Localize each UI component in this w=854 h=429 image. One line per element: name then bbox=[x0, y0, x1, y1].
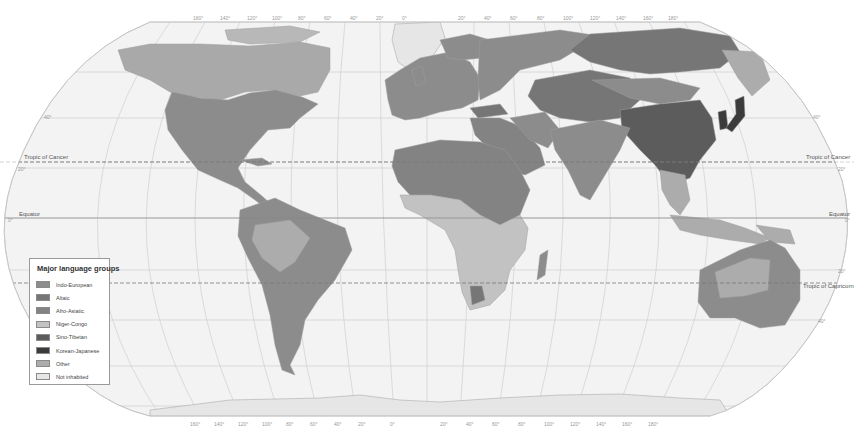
svg-text:140°: 140° bbox=[214, 421, 224, 427]
legend-label: Not inhabited bbox=[56, 374, 88, 380]
svg-text:60°: 60° bbox=[310, 421, 318, 427]
svg-text:180°: 180° bbox=[648, 421, 658, 427]
svg-text:40°: 40° bbox=[350, 15, 358, 21]
svg-text:160°: 160° bbox=[622, 421, 632, 427]
legend: Major language groups Indo-European Alta… bbox=[29, 258, 110, 385]
lat-tick-0-right: 0° bbox=[845, 217, 850, 223]
svg-text:140°: 140° bbox=[220, 15, 230, 21]
legend-label: Afro-Asiatic bbox=[56, 308, 84, 314]
longitude-ticks-top: 160° 140° 120° 100° 80° 60° 40° 20° 0° 2… bbox=[193, 15, 678, 21]
svg-text:20°: 20° bbox=[376, 15, 384, 21]
svg-text:160°: 160° bbox=[193, 15, 203, 21]
svg-text:120°: 120° bbox=[247, 15, 257, 21]
legend-swatch bbox=[36, 334, 50, 341]
svg-text:80°: 80° bbox=[286, 421, 294, 427]
legend-swatch bbox=[36, 307, 50, 314]
svg-text:60°: 60° bbox=[324, 15, 332, 21]
legend-label: Sino-Tibetan bbox=[56, 334, 87, 340]
legend-swatch bbox=[36, 347, 50, 354]
svg-text:20°: 20° bbox=[440, 421, 448, 427]
legend-label: Altaic bbox=[56, 295, 69, 301]
svg-text:80°: 80° bbox=[518, 421, 526, 427]
legend-item-sino-tibetan: Sino-Tibetan bbox=[36, 331, 103, 344]
svg-text:140°: 140° bbox=[596, 421, 606, 427]
legend-item-korean-japanese: Korean-Japanese bbox=[36, 344, 103, 357]
lat-tick-s40-right: 40° bbox=[818, 318, 826, 324]
svg-text:100°: 100° bbox=[563, 15, 573, 21]
legend-swatch bbox=[36, 294, 50, 301]
svg-text:180°: 180° bbox=[668, 15, 678, 21]
longitude-ticks-bottom: 160° 140° 120° 100° 80° 60° 40° 20° 0° 2… bbox=[190, 421, 658, 427]
legend-label: Indo-European bbox=[56, 282, 92, 288]
legend-swatch bbox=[36, 360, 50, 367]
legend-swatch bbox=[36, 281, 50, 288]
svg-text:120°: 120° bbox=[238, 421, 248, 427]
label-tropic-of-capricorn-right: Tropic of Capricorn bbox=[803, 283, 854, 289]
svg-text:60°: 60° bbox=[492, 421, 500, 427]
legend-label: Korean-Japanese bbox=[56, 348, 99, 354]
svg-text:140°: 140° bbox=[616, 15, 626, 21]
svg-text:60°: 60° bbox=[510, 15, 518, 21]
svg-text:0°: 0° bbox=[390, 421, 395, 427]
legend-item-other: Other bbox=[36, 357, 103, 370]
lat-tick-n20-right: 20° bbox=[838, 166, 846, 172]
svg-text:120°: 120° bbox=[570, 421, 580, 427]
lat-tick-n40-right: 40° bbox=[813, 114, 821, 120]
svg-text:40°: 40° bbox=[334, 421, 342, 427]
svg-text:80°: 80° bbox=[298, 15, 306, 21]
legend-label: Other bbox=[56, 361, 70, 367]
svg-text:100°: 100° bbox=[262, 421, 272, 427]
svg-text:100°: 100° bbox=[544, 421, 554, 427]
legend-item-indo-european: Indo-European bbox=[36, 278, 103, 291]
legend-item-afro-asiatic: Afro-Asiatic bbox=[36, 304, 103, 317]
svg-text:100°: 100° bbox=[272, 15, 282, 21]
svg-text:120°: 120° bbox=[590, 15, 600, 21]
legend-item-altaic: Altaic bbox=[36, 291, 103, 304]
svg-text:20°: 20° bbox=[458, 15, 466, 21]
svg-text:160°: 160° bbox=[190, 421, 200, 427]
legend-item-not-inhabited: Not inhabited bbox=[36, 370, 103, 383]
lat-tick-n40-left: 40° bbox=[44, 114, 52, 120]
svg-text:20°: 20° bbox=[358, 421, 366, 427]
label-tropic-of-cancer-right: Tropic of Cancer bbox=[806, 154, 850, 160]
svg-text:80°: 80° bbox=[537, 15, 545, 21]
lat-tick-s20-right: 20° bbox=[838, 268, 846, 274]
legend-item-niger-congo: Niger-Congo bbox=[36, 318, 103, 331]
legend-title: Major language groups bbox=[37, 264, 103, 273]
label-equator-left: Equator bbox=[19, 211, 40, 217]
svg-text:160°: 160° bbox=[643, 15, 653, 21]
lat-tick-n20-left: 20° bbox=[18, 166, 26, 172]
label-tropic-of-cancer-left: Tropic of Cancer bbox=[24, 154, 68, 160]
legend-swatch bbox=[36, 321, 50, 328]
legend-label: Niger-Congo bbox=[56, 321, 87, 327]
lat-tick-0-left: 0° bbox=[8, 217, 13, 223]
legend-swatch bbox=[36, 373, 50, 380]
svg-text:40°: 40° bbox=[466, 421, 474, 427]
svg-text:0°: 0° bbox=[402, 15, 407, 21]
world-map: Tropic of Cancer Tropic of Cancer Equato… bbox=[0, 0, 854, 429]
svg-text:40°: 40° bbox=[484, 15, 492, 21]
